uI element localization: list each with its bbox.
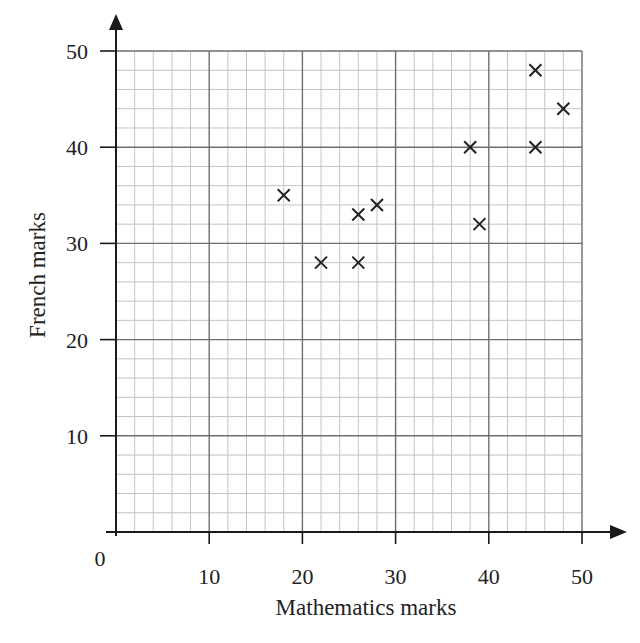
x-tick-label: 20 xyxy=(291,564,313,589)
x-axis-title: Mathematics marks xyxy=(276,595,457,620)
scatter-chart: 10203040501020304050 0 Mathematics marks… xyxy=(0,0,640,643)
x-tick-label: 30 xyxy=(385,564,407,589)
tick-labels: 10203040501020304050 xyxy=(66,39,593,589)
x-tick-label: 50 xyxy=(571,564,593,589)
y-axis-title: French marks xyxy=(25,212,50,338)
y-tick-label: 10 xyxy=(66,424,88,449)
major-grid xyxy=(116,51,582,532)
axes xyxy=(106,14,627,539)
y-tick-label: 30 xyxy=(66,231,88,256)
y-axis-arrow-icon xyxy=(109,14,123,30)
x-tick-label: 40 xyxy=(478,564,500,589)
y-tick-label: 20 xyxy=(66,328,88,353)
x-tick-label: 10 xyxy=(198,564,220,589)
origin-label: 0 xyxy=(95,546,106,571)
y-tick-label: 50 xyxy=(66,39,88,64)
y-tick-label: 40 xyxy=(66,135,88,160)
minor-grid xyxy=(116,51,582,532)
x-axis-arrow-icon xyxy=(610,525,627,539)
